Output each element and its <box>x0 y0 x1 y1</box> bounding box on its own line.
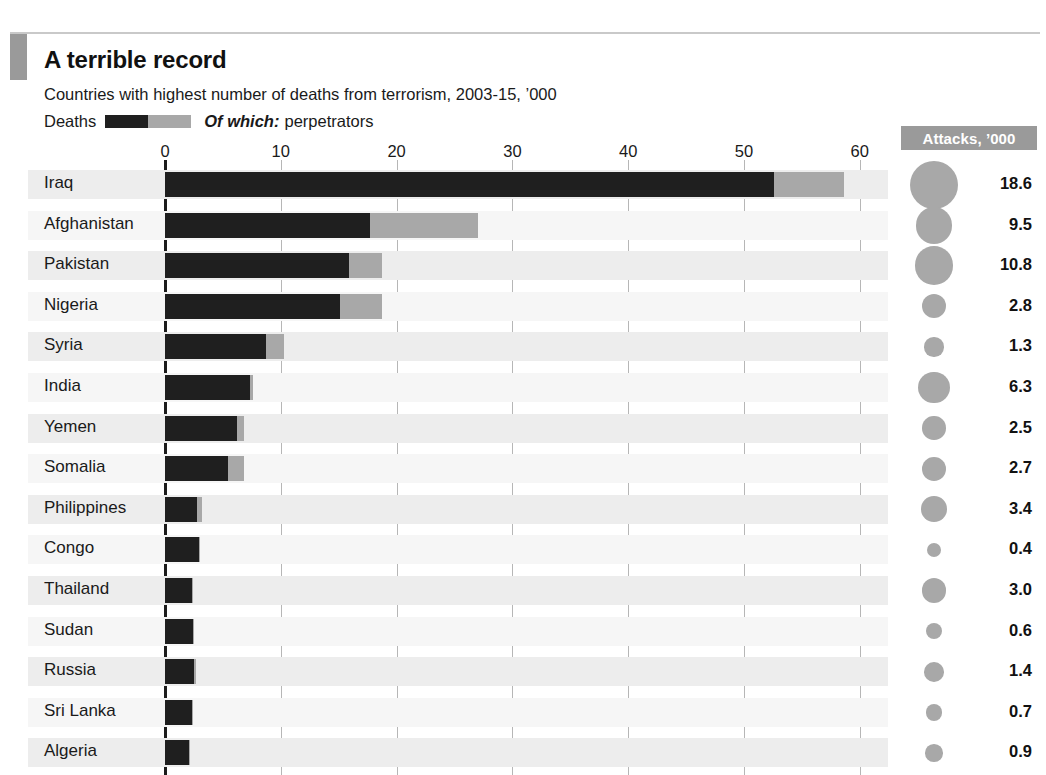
bar-segment-perpetrators[interactable] <box>250 375 253 400</box>
attacks-bubble[interactable] <box>922 578 947 603</box>
attacks-value-label: 3.4 <box>974 499 1032 518</box>
attacks-bubble[interactable] <box>915 246 954 285</box>
bar-segment-perpetrators[interactable] <box>237 416 244 441</box>
bar-segment-deaths[interactable] <box>165 375 250 400</box>
country-label: Thailand <box>44 579 109 599</box>
bar-segment-deaths[interactable] <box>165 619 193 644</box>
bar-segment-perpetrators[interactable] <box>193 619 194 644</box>
bar-segment-deaths[interactable] <box>165 740 189 765</box>
country-label: Sudan <box>44 620 93 640</box>
attacks-bubble[interactable] <box>925 744 943 762</box>
bar-segment-deaths[interactable] <box>165 659 194 684</box>
bar-segment-deaths[interactable] <box>165 497 197 522</box>
chart-row[interactable]: Iraq18.6 <box>0 164 1046 204</box>
chart-row[interactable]: Congo0.4 <box>0 529 1046 569</box>
bar-segment-deaths[interactable] <box>165 172 774 197</box>
bar-segment-deaths[interactable] <box>165 416 237 441</box>
x-axis-tick-40: 40 <box>619 142 637 161</box>
chart-row[interactable]: Sudan0.6 <box>0 611 1046 651</box>
bar-segment-perpetrators[interactable] <box>349 253 381 278</box>
bar-segment-deaths[interactable] <box>165 578 192 603</box>
attacks-bubble[interactable] <box>926 623 942 639</box>
chart-row[interactable]: Philippines3.4 <box>0 489 1046 529</box>
attacks-bubble[interactable] <box>927 543 942 558</box>
x-axis-tick-labels: 0102030405060 <box>0 142 1046 162</box>
chart-plot-area: 0102030405060 Iraq18.6Afghanistan9.5Paki… <box>0 160 1046 775</box>
row-band <box>28 373 888 402</box>
chart-row[interactable]: Nigeria2.8 <box>0 286 1046 326</box>
attacks-bubble[interactable] <box>922 457 946 481</box>
attacks-value-label: 6.3 <box>974 377 1032 396</box>
country-label: Sri Lanka <box>44 701 116 721</box>
row-band <box>28 251 888 280</box>
bar-segment-perpetrators[interactable] <box>266 334 285 359</box>
bar-segment-deaths[interactable] <box>165 456 228 481</box>
chart-row[interactable]: Afghanistan9.5 <box>0 205 1046 245</box>
x-axis-tick-10: 10 <box>272 142 290 161</box>
chart-row[interactable]: Algeria0.9 <box>0 732 1046 772</box>
country-label: Afghanistan <box>44 214 134 234</box>
page-title: A terrible record <box>44 46 226 74</box>
brand-accent-block <box>10 34 27 80</box>
attacks-bubble[interactable] <box>910 161 958 209</box>
legend-swatch-deaths <box>105 115 148 128</box>
row-band <box>28 576 888 605</box>
legend-of-which-label: Of which: <box>204 112 279 131</box>
chart-row[interactable]: Thailand3.0 <box>0 570 1046 610</box>
row-band <box>28 738 888 767</box>
bar-segment-deaths[interactable] <box>165 213 370 238</box>
bar-segment-deaths[interactable] <box>165 700 192 725</box>
country-label: Russia <box>44 660 96 680</box>
bar-segment-deaths[interactable] <box>165 334 266 359</box>
country-label: Nigeria <box>44 295 98 315</box>
legend-perpetrators-label: perpetrators <box>284 112 373 131</box>
attacks-value-label: 2.8 <box>974 296 1032 315</box>
country-label: Iraq <box>44 173 73 193</box>
bar-segment-perpetrators[interactable] <box>189 740 190 765</box>
attacks-bubble[interactable] <box>922 294 946 318</box>
chart-row[interactable]: Somalia2.7 <box>0 448 1046 488</box>
row-band <box>28 535 888 564</box>
attacks-bubble[interactable] <box>918 372 950 404</box>
x-axis-tick-20: 20 <box>387 142 405 161</box>
attacks-bubble[interactable] <box>926 704 943 721</box>
bar-segment-perpetrators[interactable] <box>192 578 193 603</box>
chart-row[interactable]: Russia1.4 <box>0 651 1046 691</box>
attacks-value-label: 0.9 <box>974 742 1032 761</box>
bar-segment-perpetrators[interactable] <box>370 213 478 238</box>
attacks-bubble[interactable] <box>921 496 947 522</box>
chart-row[interactable]: Sri Lanka0.7 <box>0 692 1046 732</box>
bar-segment-perpetrators[interactable] <box>228 456 244 481</box>
attacks-bubble[interactable] <box>916 207 953 244</box>
country-label: Algeria <box>44 741 97 761</box>
bar-segment-perpetrators[interactable] <box>774 172 843 197</box>
bar-segment-perpetrators[interactable] <box>192 700 193 725</box>
x-axis-tick-50: 50 <box>735 142 753 161</box>
attacks-bubble[interactable] <box>924 337 943 356</box>
attacks-bubble[interactable] <box>922 416 945 439</box>
bar-segment-perpetrators[interactable] <box>340 294 382 319</box>
chart-row[interactable]: Syria1.3 <box>0 326 1046 366</box>
bar-segment-perpetrators[interactable] <box>199 537 200 562</box>
bar-segment-perpetrators[interactable] <box>197 497 202 522</box>
attacks-value-label: 0.6 <box>974 621 1032 640</box>
attacks-value-label: 1.3 <box>974 336 1032 355</box>
bar-segment-deaths[interactable] <box>165 294 340 319</box>
chart-row[interactable]: Pakistan10.8 <box>0 245 1046 285</box>
chart-row[interactable]: Yemen2.5 <box>0 408 1046 448</box>
row-band <box>28 617 888 646</box>
country-label: Philippines <box>44 498 126 518</box>
row-band <box>28 332 888 361</box>
attacks-value-label: 3.0 <box>974 580 1032 599</box>
attacks-value-label: 2.7 <box>974 458 1032 477</box>
attacks-bubble[interactable] <box>924 662 944 682</box>
country-label: Pakistan <box>44 254 109 274</box>
bar-segment-deaths[interactable] <box>165 537 199 562</box>
bar-segment-perpetrators[interactable] <box>194 659 196 684</box>
chart-row[interactable]: India6.3 <box>0 367 1046 407</box>
bar-segment-deaths[interactable] <box>165 253 349 278</box>
row-band <box>28 698 888 727</box>
country-label: Congo <box>44 538 94 558</box>
header-rule <box>10 32 1040 34</box>
attacks-value-label: 0.7 <box>974 702 1032 721</box>
